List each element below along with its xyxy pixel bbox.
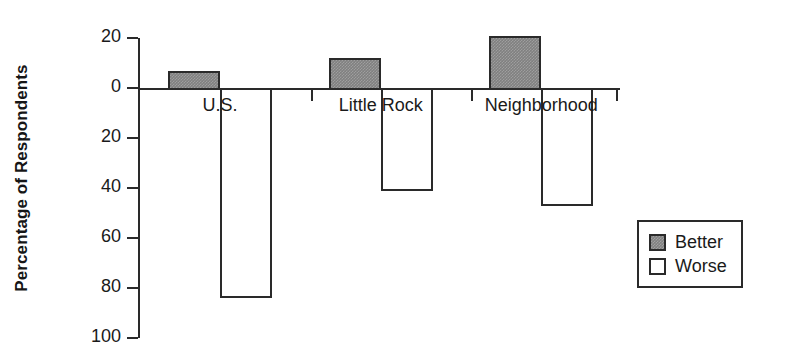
plot-area: 20020406080100 U.S.Little RockNeighborho… (138, 38, 620, 338)
y-tick-label: 0 (111, 75, 121, 97)
y-tick-60: 60 (127, 237, 138, 239)
bar-better-neighborhood (489, 36, 541, 91)
category-label-little-rock: Little Rock (339, 94, 423, 116)
legend-label-worse: Worse (675, 256, 727, 276)
legend-label-better: Better (675, 232, 723, 252)
y-tick-label: 40 (101, 175, 121, 197)
y-tick-0: 0 (127, 87, 138, 89)
y-tick-label: 80 (101, 275, 121, 297)
y-tick-label: 60 (101, 225, 121, 247)
y-axis-spine (138, 38, 140, 338)
legend-swatch-better-icon (649, 234, 666, 251)
category-label-neighborhood: Neighborhood (485, 94, 598, 116)
y-tick-20: 20 (127, 37, 138, 39)
chart-screenshot: Percentage of Respondents 20020406080100… (0, 0, 796, 356)
y-tick-100: 100 (127, 337, 138, 339)
chart-legend: Better Worse (637, 220, 743, 288)
legend-item-worse: Worse (649, 254, 727, 278)
x-tick-end (616, 90, 618, 101)
x-tick-minor (311, 90, 313, 101)
bar-worse-u-s (220, 88, 272, 298)
bar-better-u-s (168, 71, 220, 91)
y-tick-20: 20 (127, 137, 138, 139)
y-tick-80: 80 (127, 287, 138, 289)
x-tick-minor (471, 90, 473, 101)
legend-item-better: Better (649, 230, 727, 254)
y-tick-40: 40 (127, 187, 138, 189)
y-tick-label: 20 (101, 125, 121, 147)
y-tick-label: 100 (91, 325, 121, 347)
category-label-u-s: U.S. (202, 94, 237, 116)
bar-better-little-rock (329, 58, 381, 90)
legend-swatch-worse-icon (649, 258, 666, 275)
y-tick-label: 20 (101, 25, 121, 47)
y-axis-title: Percentage of Respondents (0, 0, 44, 356)
